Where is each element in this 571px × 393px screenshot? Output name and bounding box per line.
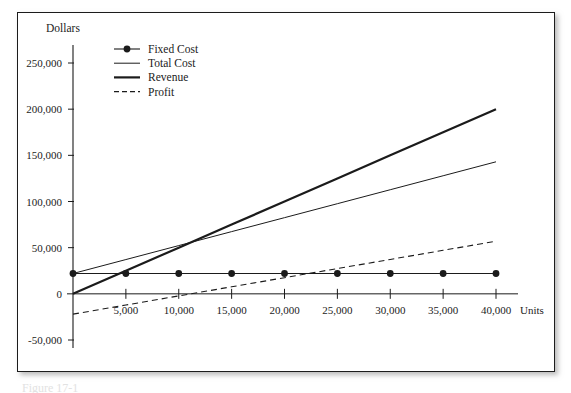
y-tick-label: -50,000 — [28, 334, 62, 346]
x-tick-label: 40,000 — [481, 304, 512, 316]
series-marker-fixed-cost — [175, 270, 182, 277]
figure-caption: Figure 17-1 — [22, 381, 322, 393]
series-marker-fixed-cost — [228, 270, 235, 277]
legend-label-revenue: Revenue — [148, 71, 188, 83]
y-tick-label: 100,000 — [26, 196, 62, 208]
series-marker-fixed-cost — [493, 270, 500, 277]
y-tick-label: 200,000 — [26, 103, 62, 115]
series-marker-fixed-cost — [387, 270, 394, 277]
legend-label-profit: Profit — [148, 86, 175, 98]
y-tick-label: 150,000 — [26, 149, 62, 161]
series-marker-fixed-cost — [334, 270, 341, 277]
series-marker-fixed-cost — [440, 270, 447, 277]
y-axis-title: Dollars — [46, 22, 80, 34]
series-marker-fixed-cost — [281, 270, 288, 277]
series-line-total-cost — [73, 162, 496, 274]
y-tick-label: 0 — [57, 288, 63, 300]
figure-frame: -50,000050,000100,000150,000200,000250,0… — [17, 12, 555, 372]
y-tick-label: 250,000 — [26, 57, 62, 69]
series-line-revenue — [73, 109, 496, 294]
x-tick-label: 20,000 — [269, 304, 300, 316]
x-tick-label: 30,000 — [375, 304, 406, 316]
legend-label-total-cost: Total Cost — [148, 57, 196, 69]
x-tick-label: 35,000 — [428, 304, 459, 316]
legend-marker-fixed-cost — [124, 46, 131, 53]
x-tick-label: 25,000 — [322, 304, 353, 316]
break-even-chart: -50,000050,000100,000150,000200,000250,0… — [18, 13, 556, 373]
x-tick-label: 10,000 — [164, 304, 195, 316]
x-axis-title: Units — [520, 304, 544, 316]
x-tick-label: 15,000 — [217, 304, 248, 316]
y-tick-label: 50,000 — [32, 242, 63, 254]
x-tick-label: 5,000 — [114, 304, 139, 316]
legend-label-fixed-cost: Fixed Cost — [148, 43, 199, 55]
